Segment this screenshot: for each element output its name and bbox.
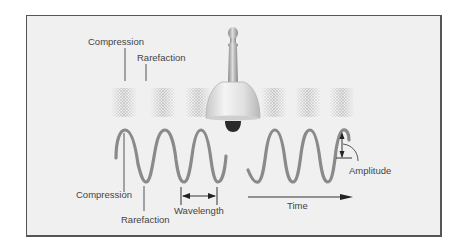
wavelength-arrow: [181, 187, 217, 205]
bell: [206, 27, 260, 132]
label-compression-top: Compression: [88, 37, 144, 47]
label-wavelength: Wavelength: [174, 206, 224, 216]
label-rarefaction-bottom: Rarefaction: [121, 215, 170, 225]
sound-wave-diagram: [0, 0, 468, 252]
wave-left: [116, 130, 226, 182]
label-amplitude: Amplitude: [349, 166, 391, 176]
wave-right: [248, 130, 349, 182]
clapper: [225, 121, 241, 132]
label-time: Time: [287, 201, 308, 211]
label-rarefaction-top: Rarefaction: [137, 53, 186, 63]
label-compression-bottom: Compression: [76, 190, 132, 200]
